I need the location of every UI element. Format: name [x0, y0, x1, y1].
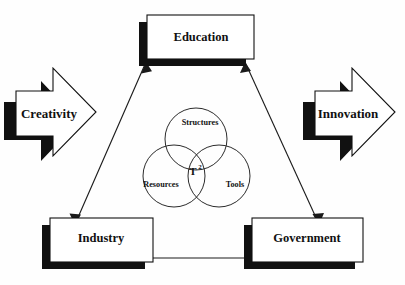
diagram-canvas: Creativity Innovation Structures Resourc… — [0, 0, 405, 285]
venn-circle-tools — [188, 145, 250, 207]
venn-label-tools: Tools — [226, 180, 244, 189]
node-industry[interactable]: Industry — [42, 218, 153, 269]
connector-education-industry — [70, 61, 153, 225]
venn-label-resources: Resources — [143, 180, 178, 189]
node-education[interactable]: Education — [139, 15, 254, 66]
industry-box-label: Industry — [78, 231, 125, 245]
creativity-arrow: Creativity — [4, 68, 96, 161]
education-box-label: Education — [174, 30, 229, 44]
innovation-arrow-label: Innovation — [318, 106, 379, 121]
creativity-arrow-label: Creativity — [21, 106, 78, 121]
connector-education-government — [240, 62, 324, 225]
innovation-arrow: Innovation — [303, 68, 395, 161]
venn-center-superscript: 2 — [198, 163, 202, 171]
venn-center-label: T — [189, 165, 197, 177]
venn-diagram: Structures Resources Tools T 2 — [143, 108, 250, 207]
triple-helix-diagram: Creativity Innovation Structures Resourc… — [0, 0, 405, 285]
venn-label-structures: Structures — [182, 118, 219, 127]
node-government[interactable]: Government — [244, 218, 363, 269]
government-box-label: Government — [273, 231, 341, 245]
